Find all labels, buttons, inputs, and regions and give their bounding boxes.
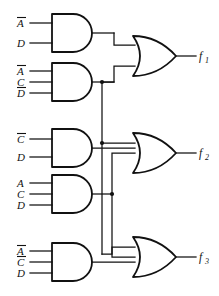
or-gate-2 xyxy=(133,133,196,173)
circuit-schematic: A D A C D C D A C D A C D f 1 f 2 f 3 xyxy=(0,0,219,296)
input-label-and4-2: D xyxy=(16,199,25,211)
output-label-f1: f 1 xyxy=(199,50,209,65)
input-label-and1-1: D xyxy=(16,37,25,49)
logic-circuit-figure: A D A C D C D A C D A C D f 1 f 2 f 3 xyxy=(0,0,219,296)
junction-dot-and2 xyxy=(100,80,104,84)
and-gate-3 xyxy=(30,129,135,167)
input-label-and3-0: C xyxy=(17,133,25,145)
output-label-f1-base: f xyxy=(199,50,204,63)
net-and2-fanout xyxy=(100,66,135,254)
output-label-f3-base: f xyxy=(199,251,204,264)
and-gate-4 xyxy=(30,175,112,213)
or-gate-1 xyxy=(133,36,196,76)
input-label-and2-2: D xyxy=(16,87,25,99)
output-label-f2-subscript: 2 xyxy=(205,153,209,162)
net-and4-fanout xyxy=(110,153,135,257)
and-gate-1 xyxy=(30,14,114,52)
or-gate-3 xyxy=(133,237,196,277)
output-label-f1-subscript: 1 xyxy=(205,56,209,65)
and-gate-5 xyxy=(30,243,135,281)
output-label-f2-base: f xyxy=(199,147,204,160)
output-label-f3: f 3 xyxy=(199,251,209,266)
input-label-and1-0: A xyxy=(16,17,24,29)
junction-dot-and2-or2 xyxy=(100,141,104,145)
input-label-and3-1: D xyxy=(16,151,25,163)
output-label-f3-subscript: 3 xyxy=(204,257,209,266)
net-and1-to-or1 xyxy=(114,33,135,45)
output-label-f2: f 2 xyxy=(199,147,209,162)
junction-dot-and4 xyxy=(110,192,114,196)
input-label-and5-2: D xyxy=(16,267,25,279)
